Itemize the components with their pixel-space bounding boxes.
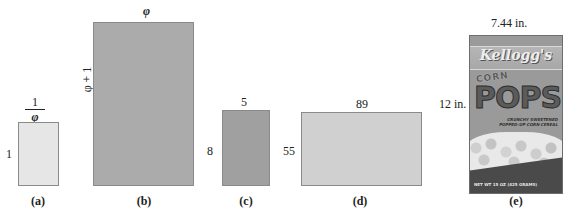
product-tagline: CRUNCHY SWEETENED POPPED-UP CORN CEREAL (499, 117, 558, 127)
caption-c: (c) (226, 194, 266, 209)
caption-b: (b) (124, 194, 164, 209)
rectangle-c (222, 110, 270, 186)
rectangle-d (301, 112, 422, 186)
rectangle-a (18, 122, 59, 186)
brand-logo: Kellogg's (470, 47, 562, 63)
cereal-box-image: Kellogg's CORN POPS CRUNCHY SWEETENED PO… (469, 35, 563, 194)
caption-e: (e) (496, 194, 536, 209)
width-label-c: 5 (241, 95, 247, 110)
product-name-line2: POPS (474, 80, 561, 115)
height-label-c: 8 (207, 144, 213, 159)
rectangle-b (93, 22, 194, 186)
caption-a: (a) (18, 194, 58, 209)
height-label-e: 12 in. (439, 97, 466, 112)
height-label-a: 1 (6, 147, 12, 162)
tagline-line2: POPPED-UP CORN CEREAL (499, 122, 558, 127)
net-weight-text: NET WT 15 OZ (425 GRAMS) (474, 182, 537, 187)
width-label-d: 89 (356, 97, 368, 112)
fraction-numerator: 1 (25, 96, 45, 110)
width-label-a: 1 φ (25, 96, 45, 123)
width-label-e: 7.44 in. (491, 16, 527, 31)
height-label-d: 55 (283, 144, 295, 159)
width-label-b: φ (143, 4, 150, 19)
caption-d: (d) (340, 194, 380, 209)
